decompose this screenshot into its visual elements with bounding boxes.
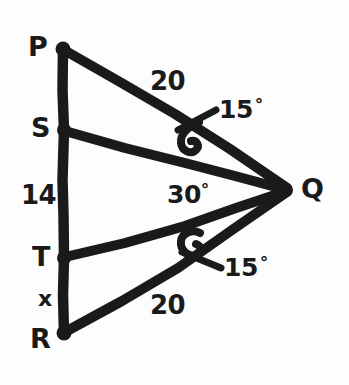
vertex-dot-S	[57, 123, 71, 137]
vertex-dot-P	[56, 42, 71, 57]
length-label-x: x	[38, 288, 52, 310]
vertex-dot-T	[57, 251, 71, 265]
length-label-14: 14	[21, 182, 56, 208]
angle-label-sqt: 30°	[167, 182, 209, 207]
angle-value-pqs: 15	[219, 95, 253, 124]
degree-symbol-sqt: °	[201, 180, 209, 200]
angle-value-tqr: 15	[224, 253, 258, 282]
angle-label-pqs: 15°	[219, 97, 263, 122]
vertex-label-R: R	[30, 325, 50, 352]
length-label-pq: 20	[150, 68, 185, 94]
angle-label-tqr: 15°	[224, 255, 268, 280]
degree-symbol-pqs: °	[255, 95, 263, 115]
segment-PR	[63, 49, 65, 333]
vertex-label-T: T	[32, 243, 50, 270]
length-label-rq: 20	[150, 292, 185, 318]
geometry-diagram: P S T R Q 20 14 20 x 15° 30° 15°	[0, 0, 349, 385]
vertex-dot-R	[57, 326, 72, 341]
vertex-label-S: S	[31, 114, 50, 141]
angle-value-sqt: 30	[167, 180, 201, 209]
vertex-label-Q: Q	[301, 175, 323, 202]
vertex-dot-Q	[279, 183, 293, 197]
degree-symbol-tqr: °	[260, 253, 268, 273]
vertex-label-P: P	[28, 33, 47, 60]
